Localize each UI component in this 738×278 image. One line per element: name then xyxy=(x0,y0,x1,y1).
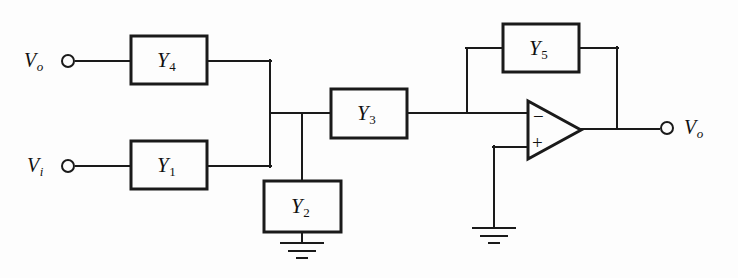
block-label-y2-base: Y xyxy=(291,194,303,218)
block-label-y5-base: Y xyxy=(529,36,541,60)
block-label-y5-sub: 5 xyxy=(541,47,548,62)
terminal-label-vo-input-base: V xyxy=(24,49,36,71)
terminal-circle-vi-input[interactable] xyxy=(62,160,74,172)
block-label-y3: Y3 xyxy=(357,101,376,128)
terminal-label-vo-input-sub: o xyxy=(36,59,43,74)
terminal-circle-vo-output[interactable] xyxy=(661,122,673,134)
terminal-circle-vo-input[interactable] xyxy=(62,55,74,67)
block-label-y4-base: Y xyxy=(157,48,169,72)
block-label-y3-sub: 3 xyxy=(369,112,376,127)
block-label-y4: Y4 xyxy=(157,48,176,75)
opamp-inverting-sign: − xyxy=(533,107,544,126)
terminal-label-vo-input: Vo xyxy=(24,49,43,75)
terminal-label-vi-input-sub: i xyxy=(39,164,43,179)
block-label-y1-sub: 1 xyxy=(169,164,176,179)
terminal-label-vo-output-base: V xyxy=(684,116,696,138)
circuit-schematic-svg xyxy=(0,0,738,278)
terminal-label-vo-output: Vo xyxy=(684,116,703,142)
block-label-y4-sub: 4 xyxy=(169,59,176,74)
opamp-noninverting-sign: + xyxy=(532,133,543,152)
terminal-label-vo-output-sub: o xyxy=(696,126,703,141)
block-label-y5: Y5 xyxy=(529,36,548,63)
block-label-y1-base: Y xyxy=(157,153,169,177)
circuit-diagram-canvas: Y4 Y1 Y2 Y3 Y5 Vo Vi Vo − + xyxy=(0,0,738,278)
block-label-y3-base: Y xyxy=(357,101,369,125)
terminal-label-vi-input: Vi xyxy=(27,154,43,180)
block-label-y2: Y2 xyxy=(291,194,310,221)
block-label-y2-sub: 2 xyxy=(303,205,310,220)
terminal-label-vi-input-base: V xyxy=(27,154,39,176)
block-label-y1: Y1 xyxy=(157,153,176,180)
